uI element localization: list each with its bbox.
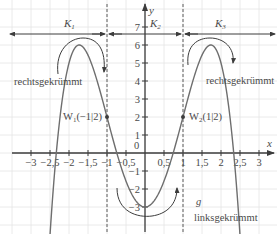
x-tick-label: −3 <box>25 157 36 168</box>
inflection-label-w2: W2(1|2) <box>189 111 223 124</box>
y-axis-label: y <box>148 4 154 16</box>
y-tick-label: 4 <box>135 76 141 87</box>
curvature-diagram: x y 0 −3−2,5−2−1,5−1−0,50,511,522,53 765… <box>0 0 277 234</box>
interval-label-k1: K1 <box>63 17 75 31</box>
y-tick-label: 6 <box>135 40 140 51</box>
x-tick-label: 3 <box>256 157 261 168</box>
x-tick-label: −2,5 <box>40 157 59 168</box>
interval-label-k2: K2 <box>149 17 161 31</box>
y-tick-label: −1 <box>129 166 140 177</box>
y-tick-label: 2 <box>135 112 140 123</box>
inflection-point-w1 <box>105 115 109 119</box>
curvature-label-left: rechtsgekrümmt <box>14 76 82 87</box>
curvature-arrow-left <box>58 38 105 74</box>
curvature-arrow-right <box>188 38 233 65</box>
x-axis-label: x <box>266 137 272 149</box>
interval-label-k3: K3 <box>214 17 226 31</box>
x-tick-label: −1,5 <box>78 157 97 168</box>
x-tick-label: 1,5 <box>195 157 208 168</box>
curvature-label-middle: linksgekrümmt <box>194 212 258 223</box>
y-tick-label: 7 <box>135 22 140 33</box>
y-tick-label: 3 <box>135 94 140 105</box>
x-tick-label: −2 <box>63 157 74 168</box>
graph-label-g: g <box>196 196 201 207</box>
inflection-point-w2 <box>181 115 185 119</box>
curvature-label-right: rechtsgekrümmt <box>206 75 274 86</box>
x-tick-label: 2 <box>218 157 223 168</box>
y-tick-label: 5 <box>135 58 140 69</box>
y-tick-label: 1 <box>135 130 140 141</box>
y-tick-label: −2 <box>129 184 140 195</box>
origin-label: 0 <box>134 140 139 151</box>
